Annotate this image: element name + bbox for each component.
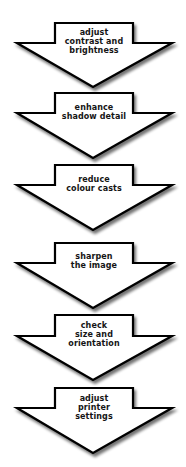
step-label-line: sharpen [55,252,133,261]
step-label-line: adjust [55,28,133,37]
step-label-line: check [55,321,133,330]
step-label: check size and orientation [55,321,133,348]
step-label-line: brightness [55,46,133,55]
step-label: adjust printer settings [55,394,133,421]
flow-step-adjust-contrast: adjust contrast and brightness [0,22,186,92]
step-label-line: orientation [55,339,133,348]
flow-step-enhance-shadow: enhance shadow detail [0,92,186,162]
step-label: enhance shadow detail [55,103,133,121]
step-label: reduce colour casts [55,175,133,193]
step-label-line: printer [55,403,133,412]
flow-step-adjust-printer: adjust printer settings [0,387,186,457]
process-flow-diagram: adjust contrast and brightness enhance s… [0,0,186,467]
step-label-line: adjust [55,394,133,403]
flow-step-check-size: check size and orientation [0,314,186,384]
step-label-line: size and [55,330,133,339]
step-label-line: the image [55,261,133,270]
step-label-line: enhance [55,103,133,112]
step-label: sharpen the image [55,252,133,270]
step-label-line: settings [55,412,133,421]
step-label: adjust contrast and brightness [55,28,133,55]
flow-step-sharpen: sharpen the image [0,242,186,312]
flow-step-reduce-colour-casts: reduce colour casts [0,164,186,234]
step-label-line: colour casts [55,184,133,193]
step-label-line: contrast and [55,37,133,46]
step-label-line: reduce [55,175,133,184]
step-label-line: shadow detail [55,112,133,121]
